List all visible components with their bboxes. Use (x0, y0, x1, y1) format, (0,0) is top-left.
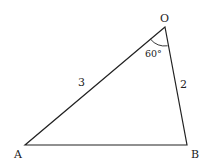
side-label-ob: 2 (180, 78, 187, 91)
vertex-label-b: B (191, 148, 199, 161)
vertex-label-a: A (13, 148, 23, 161)
angle-arc-o (151, 39, 168, 46)
triangle-diagram: O A B 3 2 60° (0, 0, 212, 164)
vertex-label-o: O (160, 12, 169, 25)
angle-label-o: 60° (145, 48, 162, 59)
triangle-oab (25, 27, 187, 145)
side-label-oa: 3 (78, 76, 85, 89)
